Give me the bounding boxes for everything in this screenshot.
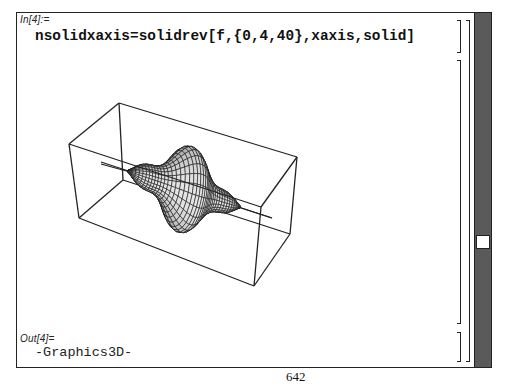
graphics3d-output[interactable] [0, 0, 508, 386]
revolution-axis-front [238, 207, 272, 218]
output-cell-label: Out[4]= [20, 333, 54, 344]
revolution-surface [128, 146, 241, 233]
page-number: 642 [286, 369, 306, 385]
output-cell-value: -Graphics3D- [35, 345, 132, 360]
output-cell-bracket[interactable] [457, 332, 461, 362]
cell-group-bracket[interactable] [466, 20, 470, 362]
vertical-scrollbar[interactable] [474, 13, 491, 367]
scrollbar-thumb[interactable] [476, 235, 490, 249]
input-cell-bracket[interactable] [457, 20, 461, 53]
graphics-cell-bracket[interactable] [457, 60, 461, 324]
